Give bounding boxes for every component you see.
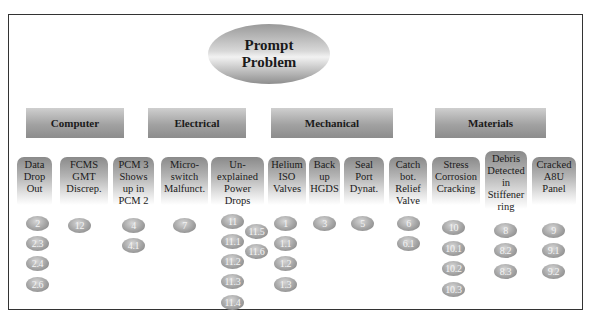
item-node: 11.5 xyxy=(245,224,268,239)
item-node: 10.2 xyxy=(442,261,465,276)
item-node: 10.3 xyxy=(442,282,465,297)
problem-cracked-a8u-panel: Cracked A8U Panel xyxy=(532,157,576,205)
problem-back-up-hgds: Back up HGDS xyxy=(309,157,340,205)
item-node: 12 xyxy=(68,218,91,233)
category-electrical: Electrical xyxy=(148,108,246,138)
item-node: 9.2 xyxy=(542,264,565,279)
root-node-prompt-problem: Prompt Problem xyxy=(208,24,330,84)
item-node: 11.6 xyxy=(245,244,268,259)
item-node: 11.3 xyxy=(221,274,244,289)
item-node: 1.2 xyxy=(274,256,297,271)
item-node: 11 xyxy=(221,214,244,229)
problem-seal-port-dynat: Seal Port Dynat. xyxy=(344,157,384,205)
item-node: 4 xyxy=(122,218,145,233)
item-node: 4.1 xyxy=(122,238,145,253)
category-computer: Computer xyxy=(26,108,124,138)
problem-catch-bot-relief-valve: Catch bot. Relief Valve xyxy=(389,157,427,205)
item-node: 2.4 xyxy=(26,256,49,271)
item-node: 2.6 xyxy=(26,277,49,292)
item-node: 2 xyxy=(26,216,49,231)
root-label-line1: Prompt xyxy=(242,37,297,54)
problem-debris-detected-in-stiffener-ring: Debris Detected in Stiffener ring xyxy=(485,151,527,209)
problem-stress-corrosion-cracking: Stress Corrosion Cracking xyxy=(432,157,480,205)
item-node: 1.1 xyxy=(274,236,297,251)
item-node: 1.3 xyxy=(274,277,297,292)
root-label-line2: Problem xyxy=(242,54,297,71)
item-node: 11.1 xyxy=(221,234,244,249)
item-node: 11.2 xyxy=(221,254,244,269)
problem-fcms-gmt-discrep: FCMS GMT Discrep. xyxy=(60,157,108,205)
item-node: 11.4 xyxy=(221,295,244,310)
problem-pcm3-shows-up-in-pcm2: PCM 3 Shows up in PCM 2 xyxy=(113,157,154,205)
item-node: 5 xyxy=(351,216,374,231)
category-materials: Materials xyxy=(435,108,546,138)
item-node: 8.2 xyxy=(494,243,517,258)
item-node: 10 xyxy=(442,220,465,235)
item-node: 7 xyxy=(173,218,196,233)
item-node: 6 xyxy=(397,216,420,231)
item-node: 8.3 xyxy=(494,264,517,279)
item-node: 2.3 xyxy=(26,236,49,251)
item-node: 9 xyxy=(542,223,565,238)
item-node: 10.1 xyxy=(442,241,465,256)
item-node: 1 xyxy=(274,216,297,231)
category-mechanical: Mechanical xyxy=(271,108,393,138)
problem-microswitch-malfunct: Micro- switch Malfunct. xyxy=(161,157,208,205)
problem-unexplained-power-drops: Un- explained Power Drops xyxy=(211,157,264,205)
item-node: 9.1 xyxy=(542,243,565,258)
problem-data-drop-out: Data Drop Out xyxy=(17,157,52,205)
item-node: 3 xyxy=(313,216,336,231)
item-node: 6.1 xyxy=(397,236,420,251)
item-node: 8 xyxy=(494,223,517,238)
problem-helium-iso-valves: Helium ISO Valves xyxy=(268,157,306,205)
